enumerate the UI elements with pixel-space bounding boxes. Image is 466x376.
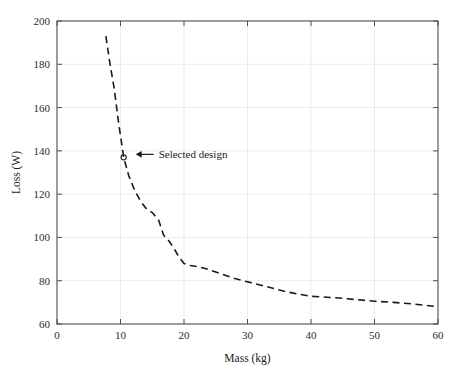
y-tick-label: 180 — [34, 58, 51, 70]
x-axis-tick-labels: 0102030405060 — [54, 329, 444, 341]
y-tick-label: 80 — [39, 275, 51, 287]
y-axis-title: Loss (W) — [10, 151, 23, 194]
x-tick-label: 60 — [433, 329, 445, 341]
figure-container: Selected design 0102030405060 6080100120… — [0, 0, 466, 376]
x-tick-label: 30 — [242, 329, 254, 341]
y-tick-label: 160 — [34, 102, 51, 114]
y-tick-label: 120 — [34, 188, 51, 200]
y-axis-tick-labels: 6080100120140160180200 — [34, 15, 51, 330]
x-tick-label: 20 — [179, 329, 191, 341]
x-tick-label: 10 — [115, 329, 127, 341]
y-tick-label: 60 — [39, 318, 51, 330]
loss-vs-mass-chart: Selected design 0102030405060 6080100120… — [0, 0, 466, 376]
x-axis-title: Mass (kg) — [224, 352, 270, 365]
annotation-text: Selected design — [159, 148, 228, 160]
y-tick-label: 100 — [34, 231, 51, 243]
x-tick-label: 0 — [54, 329, 60, 341]
y-tick-label: 140 — [34, 145, 51, 157]
x-tick-label: 40 — [306, 329, 318, 341]
y-tick-label: 200 — [34, 15, 51, 27]
x-tick-label: 50 — [369, 329, 381, 341]
